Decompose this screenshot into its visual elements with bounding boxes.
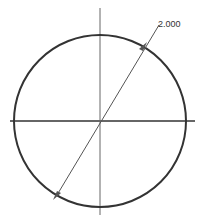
diameter-dimension-line[interactable]	[57, 25, 159, 195]
sketch-canvas: 2.000	[0, 0, 204, 221]
dimension-label[interactable]: 2.000	[158, 19, 181, 29]
arrowhead-bottom-icon	[53, 191, 61, 200]
